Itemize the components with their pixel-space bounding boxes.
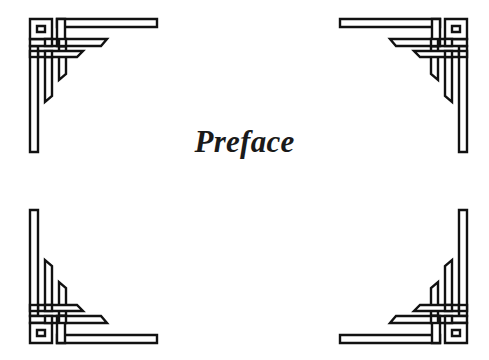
corner-ornament-bottom-right — [338, 206, 470, 346]
corner-ornament-bottom-left — [27, 206, 159, 346]
celtic-corner-ornament-icon — [338, 206, 470, 346]
page-title: Preface — [0, 124, 489, 160]
celtic-corner-ornament-icon — [27, 206, 159, 346]
